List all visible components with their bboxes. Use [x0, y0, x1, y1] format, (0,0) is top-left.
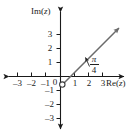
x-tick-label-2: 2	[85, 79, 93, 88]
x-tick-label-neg3: –3	[12, 79, 23, 88]
x-tick-label-1: 1	[71, 79, 79, 88]
open-endpoint-marker	[60, 82, 65, 87]
y-tick-label-2: 2	[46, 44, 54, 53]
y-axis-title-prefix: Im(	[31, 6, 44, 16]
y-axis-title-suffix: )	[48, 6, 51, 16]
y-tick-label-neg3: –3	[44, 114, 55, 123]
y-tick-label-neg1: –1	[44, 86, 55, 95]
real-axis	[9, 73, 124, 77]
angle-numerator: π	[87, 54, 101, 64]
imaginary-axis	[57, 12, 61, 129]
angle-denominator: 4	[87, 65, 101, 75]
argand-diagram-figure: –3 –2 –1 0 1 2 3 3 2 1 –1 –2 –3 Im(z) Re…	[0, 0, 131, 135]
x-axis-title: Re(z)	[106, 79, 126, 88]
x-axis-title-prefix: Re(	[106, 78, 119, 88]
y-axis-title: Im(z)	[31, 7, 51, 16]
x-axis-title-suffix: )	[123, 78, 126, 88]
x-tick-label-neg2: –2	[26, 79, 37, 88]
angle-annotation-pi-over-4: π 4	[87, 54, 101, 75]
y-tick-label-3: 3	[46, 30, 54, 39]
y-tick-label-neg2: –2	[44, 100, 55, 109]
y-tick-label-1: 1	[46, 58, 54, 67]
plot-canvas	[0, 0, 131, 135]
